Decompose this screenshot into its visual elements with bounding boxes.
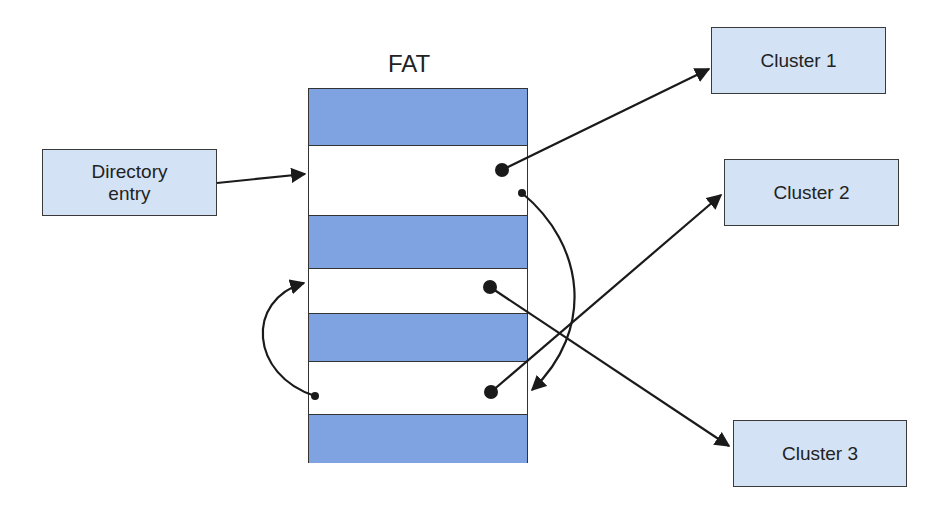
arrow-row5-to-row3	[263, 283, 315, 396]
arrow-directory-to-fat	[217, 174, 305, 183]
arrows-layer	[0, 0, 946, 510]
arrow-row1-to-row5	[522, 193, 575, 390]
arrow-row1-to-cluster1	[502, 69, 709, 170]
arrow-row3-to-cluster3	[490, 287, 729, 446]
arrow-row5-to-cluster2	[491, 195, 721, 392]
